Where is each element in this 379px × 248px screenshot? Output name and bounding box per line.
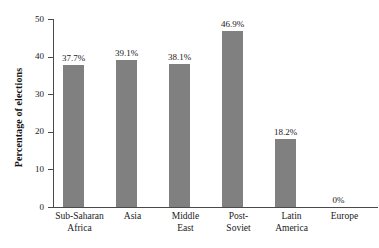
y-axis-tick-label: 20 <box>20 127 44 136</box>
bar-group[interactable]: 38.1% <box>159 19 212 207</box>
bar[interactable] <box>169 64 190 207</box>
plot-area: 37.7%39.1%38.1%46.9%18.2%0% <box>53 19 378 207</box>
y-axis-tick-label: 40 <box>20 52 44 61</box>
x-axis-category-label: Post-Soviet <box>212 210 265 234</box>
y-axis-tick-label: 10 <box>20 165 44 174</box>
bar[interactable] <box>63 65 84 207</box>
bar-value-label: 38.1% <box>151 52 208 62</box>
x-axis-category-label: LatinAmerica <box>265 210 318 234</box>
x-axis-category-line: Sub-Saharan <box>53 210 106 222</box>
bar-value-label: 0% <box>310 195 367 205</box>
x-axis-line <box>53 207 378 208</box>
x-axis-category-line: America <box>265 222 318 234</box>
x-axis-labels: Sub-SaharanAfricaAsiaMiddleEastPost-Sovi… <box>53 210 378 244</box>
bar-value-label: 37.7% <box>45 53 102 63</box>
x-axis-category-label: MiddleEast <box>159 210 212 234</box>
bar[interactable] <box>116 60 137 207</box>
x-axis-category-line: Middle <box>159 210 212 222</box>
y-axis-tick-label: 0 <box>20 203 44 212</box>
bar[interactable] <box>222 31 243 207</box>
bar-value-label: 39.1% <box>98 48 155 58</box>
bar-group[interactable]: 46.9% <box>212 19 265 207</box>
x-axis-category-label: Europe <box>318 210 371 222</box>
y-axis-tick-label: 30 <box>20 90 44 99</box>
y-axis-tick-label: 50 <box>20 15 44 24</box>
x-axis-category-line: Asia <box>106 210 159 222</box>
x-axis-category-line: Soviet <box>212 222 265 234</box>
bar-chart: Percentage of elections 01020304050 37.7… <box>0 0 379 248</box>
bar[interactable] <box>275 139 296 207</box>
x-axis-category-line: East <box>159 222 212 234</box>
bar-value-label: 18.2% <box>257 127 314 137</box>
x-axis-category-line: Post- <box>212 210 265 222</box>
bar-group[interactable]: 0% <box>318 19 371 207</box>
x-axis-category-label: Sub-SaharanAfrica <box>53 210 106 234</box>
x-axis-category-line: Latin <box>265 210 318 222</box>
bar-group[interactable]: 18.2% <box>265 19 318 207</box>
x-axis-category-line: Africa <box>53 222 106 234</box>
x-axis-category-label: Asia <box>106 210 159 222</box>
bar-value-label: 46.9% <box>204 19 261 29</box>
x-axis-category-line: Europe <box>318 210 371 222</box>
bar-group[interactable]: 39.1% <box>106 19 159 207</box>
